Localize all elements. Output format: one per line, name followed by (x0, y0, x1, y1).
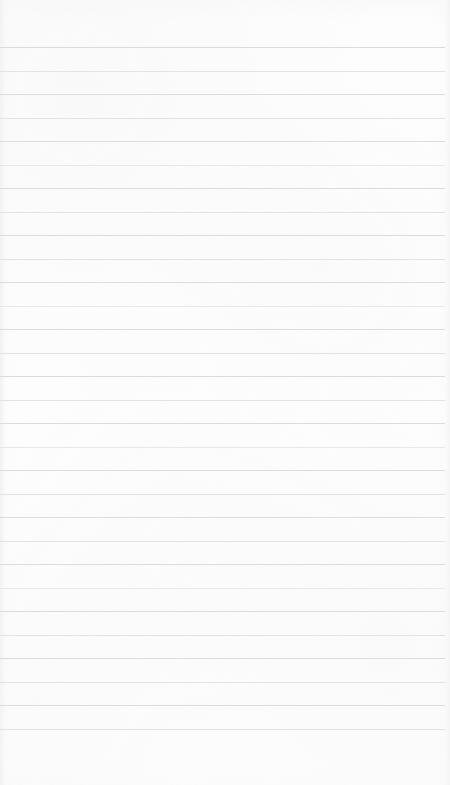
note-writing-area[interactable] (0, 0, 450, 785)
notepad-page: Blank Ruled Paper (0, 0, 450, 785)
